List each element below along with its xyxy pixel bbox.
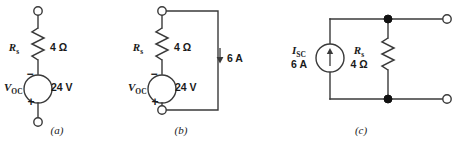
circuit-diagram-canvas: Rs 4 Ω VOC 24 V − + (a) Rs 4 Ω VOC 24 V …	[0, 0, 460, 141]
resistor-c-symbol: Rs	[353, 44, 364, 59]
caption-a: (a)	[51, 124, 64, 137]
resistor-b-value: 4 Ω	[174, 41, 191, 53]
voltage-source-a-negative-sign: −	[26, 67, 33, 81]
voltage-source-a-positive-sign: +	[27, 95, 34, 109]
resistor-b-subscript: s	[140, 47, 143, 56]
resistor-b-zigzag	[156, 28, 168, 60]
voltage-source-b-positive-sign: +	[151, 95, 158, 109]
resistor-c-zigzag	[382, 38, 394, 70]
current-source-c-value: 6 A	[291, 58, 307, 70]
terminal-c-top-right[interactable]	[443, 15, 451, 23]
circuit-c: ISC 6 A Rs 4 Ω (c)	[291, 15, 451, 137]
figure-root: Rs 4 Ω VOC 24 V − + (a) Rs 4 Ω VOC 24 V …	[0, 0, 460, 141]
resistor-b-symbol: Rs	[132, 41, 143, 56]
terminal-b-top[interactable]	[158, 7, 166, 15]
voltage-source-b-value: 24 V	[175, 81, 197, 93]
junction-dot-c-bottom	[384, 95, 392, 103]
current-source-c-symbol: ISC	[291, 44, 306, 59]
voltage-source-a-subscript: OC	[11, 87, 22, 96]
voltage-source-b-symbol: VOC	[128, 81, 147, 96]
terminal-a-bottom[interactable]	[34, 118, 42, 126]
junction-dot-c-top	[384, 15, 392, 23]
resistor-a-subscript: s	[16, 47, 19, 56]
voltage-source-b-subscript: OC	[135, 87, 146, 96]
voltage-source-a-symbol: VOC	[4, 81, 23, 96]
voltage-source-a-value: 24 V	[51, 81, 73, 93]
terminal-b-bottom[interactable]	[158, 106, 166, 114]
circuit-b: Rs 4 Ω VOC 24 V − + 6 A (b)	[128, 7, 243, 137]
resistor-a-value: 4 Ω	[50, 41, 67, 53]
current-arrow-b-label: 6 A	[227, 52, 243, 64]
resistor-a-symbol: Rs	[8, 41, 19, 56]
caption-b: (b)	[175, 124, 188, 137]
circuit-a: Rs 4 Ω VOC 24 V − + (a)	[4, 7, 73, 137]
terminal-c-bottom-right[interactable]	[443, 95, 451, 103]
resistor-c-value: 4 Ω	[350, 58, 367, 70]
resistor-a-zigzag	[32, 28, 44, 60]
voltage-source-b-negative-sign: −	[150, 67, 157, 81]
terminal-a-top[interactable]	[34, 7, 42, 15]
caption-c: (c)	[355, 124, 368, 137]
